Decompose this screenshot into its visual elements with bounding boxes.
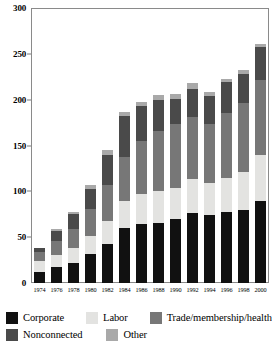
legend-swatch-corporate xyxy=(6,312,18,324)
x-tick-label-1986: 1986 xyxy=(136,286,148,293)
bars-layer xyxy=(31,8,269,283)
x-tick-label-1976: 1976 xyxy=(51,286,63,293)
bar-segment-1998-nonconnected xyxy=(238,74,250,103)
y-tick-label-250: 250 xyxy=(13,49,26,58)
legend-item-corporate: Corporate xyxy=(6,312,64,324)
legend-label-labor: Labor xyxy=(103,312,128,324)
bar-segment-1982-labor xyxy=(102,221,114,244)
bar-segment-1994-labor xyxy=(204,183,216,215)
bar-segment-1984-trade-membership-health xyxy=(119,157,131,202)
legend-label-corporate: Corporate xyxy=(23,312,64,324)
bar-segment-1990-nonconnected xyxy=(170,99,182,125)
stacked-bar-chart: 050100150200250300 197419761978198019821… xyxy=(0,0,272,348)
bar-segment-1974-labor xyxy=(34,261,46,272)
bar-segment-1986-labor xyxy=(136,194,148,224)
bar-segment-2000-corporate xyxy=(255,201,267,284)
bar-1996 xyxy=(221,79,233,283)
bar-segment-1974-trade-membership-health xyxy=(34,252,46,261)
x-tick-label-1978: 1978 xyxy=(68,286,80,293)
chart-legend: Corporate Labor Trade/membership/health … xyxy=(6,309,272,343)
bar-segment-1978-nonconnected xyxy=(68,214,80,229)
legend-swatch-nonconnected xyxy=(6,329,18,341)
y-axis: 050100150200250300 xyxy=(0,0,31,292)
bar-segment-1976-labor xyxy=(51,255,63,268)
bar-segment-1988-corporate xyxy=(153,223,165,284)
y-tick-label-150: 150 xyxy=(13,141,26,150)
bar-segment-1998-corporate xyxy=(238,210,250,283)
x-tick-label-1992: 1992 xyxy=(187,286,199,293)
bar-1998 xyxy=(238,70,250,283)
x-tick-label-1994: 1994 xyxy=(204,286,216,293)
x-tick-label-1974: 1974 xyxy=(34,286,46,293)
x-tick-label-1982: 1982 xyxy=(102,286,114,293)
bar-segment-1988-nonconnected xyxy=(153,100,165,131)
bar-segment-1978-labor xyxy=(68,248,80,263)
legend-item-other: Other xyxy=(106,329,146,341)
bar-segment-2000-nonconnected xyxy=(255,47,267,79)
bar-segment-1992-trade-membership-health xyxy=(187,117,199,179)
bar-segment-1998-labor xyxy=(238,172,250,210)
bar-1988 xyxy=(153,95,165,283)
bar-1978 xyxy=(68,212,80,283)
x-tick-label-1998: 1998 xyxy=(238,286,250,293)
bar-segment-1984-labor xyxy=(119,201,131,228)
bar-1992 xyxy=(187,83,199,283)
legend-item-labor: Labor xyxy=(86,312,128,324)
bar-segment-1990-trade-membership-health xyxy=(170,124,182,187)
bar-segment-1994-trade-membership-health xyxy=(204,124,216,183)
bar-segment-1982-trade-membership-health xyxy=(102,185,114,221)
y-tick-label-0: 0 xyxy=(22,279,26,288)
y-tick-label-200: 200 xyxy=(13,95,26,104)
x-axis: 1974197619781980198219841986198819901992… xyxy=(31,284,269,298)
bar-segment-1994-nonconnected xyxy=(204,96,216,124)
bar-segment-1992-nonconnected xyxy=(187,89,199,117)
legend-row-2: Nonconnected Other xyxy=(6,326,272,343)
bar-segment-1998-trade-membership-health xyxy=(238,103,250,172)
x-tick-label-2000: 2000 xyxy=(255,286,267,293)
bar-segment-1988-labor xyxy=(153,191,165,222)
bar-segment-1986-trade-membership-health xyxy=(136,141,148,194)
bar-segment-1976-nonconnected xyxy=(51,231,63,241)
bar-segment-1978-trade-membership-health xyxy=(68,229,80,248)
bar-segment-2000-labor xyxy=(255,155,267,201)
bar-segment-1996-trade-membership-health xyxy=(221,113,233,178)
x-tick-label-1980: 1980 xyxy=(85,286,97,293)
bar-segment-1980-corporate xyxy=(85,254,97,283)
bar-segment-1980-nonconnected xyxy=(85,189,97,209)
y-tick-label-100: 100 xyxy=(13,187,26,196)
bar-segment-1988-trade-membership-health xyxy=(153,131,165,192)
legend-swatch-other xyxy=(106,329,118,341)
bar-segment-1992-labor xyxy=(187,179,199,213)
x-tick-label-1988: 1988 xyxy=(153,286,165,293)
bar-segment-1986-corporate xyxy=(136,224,148,283)
bar-1976 xyxy=(51,229,63,283)
bar-1984 xyxy=(119,112,131,283)
bar-1994 xyxy=(204,92,216,283)
legend-row-1: Corporate Labor Trade/membership/health xyxy=(6,309,272,326)
cropped-caption-sliver xyxy=(40,0,265,3)
bar-segment-1984-nonconnected xyxy=(119,116,131,156)
bar-segment-1978-corporate xyxy=(68,263,80,283)
legend-swatch-labor xyxy=(86,312,98,324)
legend-swatch-trade-membership-health xyxy=(150,312,162,324)
bar-segment-1982-corporate xyxy=(102,244,114,283)
bar-segment-1996-nonconnected xyxy=(221,82,233,112)
legend-label-nonconnected: Nonconnected xyxy=(23,329,82,341)
bar-1986 xyxy=(136,102,148,283)
bar-segment-1994-corporate xyxy=(204,215,216,283)
bar-segment-1990-corporate xyxy=(170,219,182,283)
x-tick-label-1984: 1984 xyxy=(119,286,131,293)
y-tick-label-300: 300 xyxy=(13,4,26,13)
x-tick-label-1996: 1996 xyxy=(221,286,233,293)
bar-1980 xyxy=(85,185,97,283)
bar-segment-1986-nonconnected xyxy=(136,106,148,141)
bar-segment-1980-labor xyxy=(85,236,97,253)
legend-label-trade-membership-health: Trade/membership/health xyxy=(167,312,272,324)
bar-segment-1992-corporate xyxy=(187,213,199,283)
bar-2000 xyxy=(255,44,267,283)
bar-1974 xyxy=(34,248,46,283)
bar-segment-1996-labor xyxy=(221,178,233,212)
bar-segment-1996-corporate xyxy=(221,212,233,284)
bar-segment-2000-trade-membership-health xyxy=(255,80,267,155)
bar-1982 xyxy=(102,150,114,283)
